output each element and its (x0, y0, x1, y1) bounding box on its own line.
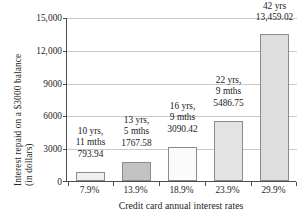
y-tick-label-9000: 9000 (28, 80, 62, 89)
x-tick-label-4: 29.9% (243, 185, 304, 196)
y-tickmark-0 (63, 181, 67, 182)
bar-29-9-percent[interactable] (260, 34, 289, 181)
annotation-time-line1: 22 yrs, (198, 75, 259, 86)
bar-13-9-percent[interactable] (122, 162, 151, 181)
annotation-time-line2: 9 mths (152, 112, 213, 123)
bar-annotation-29-9-percent: 42 yrs 13,459.02 (244, 1, 304, 24)
plot-area: 10 yrs, 11 mths 793.94 13 yrs, 5 mths 17… (66, 18, 296, 182)
y-tick-label-12000: 12,000 (28, 47, 62, 56)
bar-annotation-23-9-percent: 22 yrs, 9 mths 5486.75 (198, 75, 259, 109)
x-axis-tick-labels: 7.9% 13.9% 18.9% 23.9% 29.9% (66, 185, 296, 199)
annotation-value: 5486.75 (198, 98, 259, 109)
y-axis-title-line1: Interest repaid on a $3000 balance (13, 54, 23, 186)
y-tickmark-6000 (63, 116, 67, 117)
y-tickmark-15000 (63, 18, 67, 19)
y-tick-label-3000: 3000 (28, 145, 62, 154)
x-axis-title: Credit card annual interest rates (66, 200, 296, 211)
annotation-value: 793.94 (60, 149, 121, 160)
bar-7-9-percent[interactable] (76, 172, 105, 181)
annotation-value: 13,459.02 (244, 12, 304, 23)
y-tick-label-0: 0 (28, 178, 62, 187)
y-tick-label-6000: 6000 (28, 112, 62, 121)
annotation-value: 1767.58 (106, 138, 167, 149)
bar-18-9-percent[interactable] (168, 147, 197, 181)
y-tick-label-15000: 15,000 (28, 14, 62, 23)
bar-chart: Interest repaid on a $3000 balance (in d… (0, 0, 304, 220)
annotation-value: 3090.42 (152, 124, 213, 135)
bar-23-9-percent[interactable] (214, 121, 243, 181)
y-tickmark-12000 (63, 51, 67, 52)
y-tickmark-9000 (63, 84, 67, 85)
annotation-time-line1: 42 yrs (244, 1, 304, 12)
annotation-time-line2: 9 mths (198, 86, 259, 97)
y-axis-tick-labels: 15,000 12,000 9000 6000 3000 0 (28, 18, 62, 182)
